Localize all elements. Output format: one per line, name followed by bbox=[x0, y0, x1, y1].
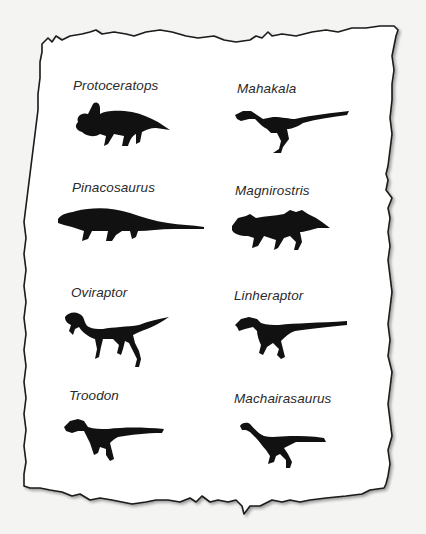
magnirostris-silhouette-icon bbox=[230, 208, 334, 254]
dino-label-mahakala: Mahakala bbox=[237, 81, 296, 96]
dino-label-troodon: Troodon bbox=[69, 388, 119, 403]
linheraptor-silhouette-icon bbox=[233, 311, 349, 363]
dino-label-oviraptor: Oviraptor bbox=[71, 285, 127, 300]
dino-label-pinacosaurus: Pinacosaurus bbox=[72, 180, 155, 195]
pinacosaurus-silhouette-icon bbox=[56, 207, 206, 243]
dino-label-protoceratops: Protoceratops bbox=[73, 78, 158, 93]
troodon-silhouette-icon bbox=[62, 417, 166, 465]
machairasaurus-silhouette-icon bbox=[238, 420, 330, 470]
oviraptor-silhouette-icon bbox=[63, 311, 171, 369]
mahakala-silhouette-icon bbox=[233, 105, 351, 157]
protoceratops-silhouette-icon bbox=[70, 100, 175, 150]
dino-label-machairasaurus: Machairasaurus bbox=[234, 391, 331, 406]
dino-label-linheraptor: Linheraptor bbox=[234, 288, 303, 303]
dino-label-magnirostris: Magnirostris bbox=[235, 183, 310, 198]
